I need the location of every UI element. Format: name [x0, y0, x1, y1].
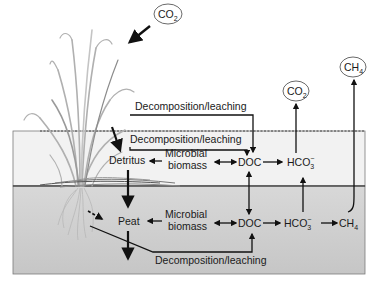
water-biomass-label: biomass [168, 159, 207, 171]
peat-microbial-label: Microbial [165, 208, 207, 220]
water-microbial-label: Microbial [165, 147, 207, 159]
peat-biomass-label: biomass [168, 220, 207, 232]
detritus-label: Detritus [109, 154, 145, 166]
water-hco3-label: HCO3− [287, 155, 314, 170]
peat-doc-label: DOC [238, 217, 262, 229]
water-doc-label: DOC [238, 156, 262, 168]
co2-uptake: CO2 [130, 4, 182, 42]
carbon-cycle-diagram: CO2 Decomposition/leaching Decomposition… [0, 0, 379, 289]
peat-label: Peat [118, 215, 140, 227]
water-flow-label: Decomposition/leaching [130, 133, 242, 145]
peat-hco3-label: HCO3− [284, 216, 311, 231]
upper-flow-label: Decomposition/leaching [135, 100, 247, 112]
peat-flow-label: Decomposition/leaching [155, 254, 267, 266]
ch4-emission: CH4 [340, 57, 366, 77]
co2-emission: CO2 [283, 81, 309, 101]
